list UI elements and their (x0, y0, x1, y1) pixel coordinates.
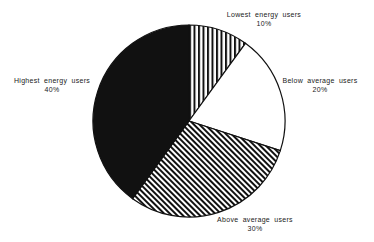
pie-slices (93, 25, 285, 217)
label-above-average-users: Above average users 30% (215, 215, 295, 233)
label-lowest-energy-users: Lowest energy users 10% (224, 10, 304, 28)
label-name: Above average users (215, 215, 295, 224)
pie-chart (0, 0, 374, 242)
label-name: Below average users (280, 76, 360, 85)
label-percent: 20% (280, 85, 360, 94)
label-highest-energy-users: Highest energy users 40% (12, 76, 92, 94)
label-name: Lowest energy users (224, 10, 304, 19)
label-below-average-users: Below average users 20% (280, 76, 360, 94)
label-percent: 10% (224, 19, 304, 28)
label-percent: 40% (12, 85, 92, 94)
label-name: Highest energy users (12, 76, 92, 85)
label-percent: 30% (215, 224, 295, 233)
